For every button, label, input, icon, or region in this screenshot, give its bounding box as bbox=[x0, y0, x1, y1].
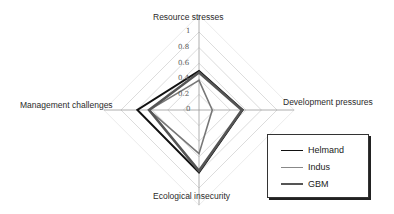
legend-item-helmand: Helmand bbox=[268, 143, 344, 157]
legend-swatch-helmand bbox=[281, 150, 303, 151]
tick-label-0-6: 0.6 bbox=[178, 59, 189, 67]
legend-item-indus: Indus bbox=[268, 160, 330, 174]
legend-label-helmand: Helmand bbox=[308, 145, 344, 155]
axis-label-development-pressures: Development pressures bbox=[283, 97, 373, 107]
legend-item-gbm: GBM bbox=[268, 177, 329, 191]
tick-label-0-8: 0.8 bbox=[178, 43, 189, 51]
tick-label-0-2: 0.2 bbox=[178, 90, 189, 98]
legend-swatch-gbm bbox=[281, 183, 303, 185]
tick-label-0-4: 0.4 bbox=[178, 74, 189, 82]
radar-axes bbox=[104, 15, 294, 205]
axis-label-resource-stresses: Resource stresses bbox=[153, 12, 223, 22]
tick-label-1: 1 bbox=[186, 27, 190, 35]
legend-swatch-indus bbox=[281, 167, 303, 168]
axis-label-ecological-insecurity: Ecological insecurity bbox=[153, 191, 230, 201]
radar-series bbox=[137, 71, 242, 172]
axis-label-management-challenges: Management challenges bbox=[20, 100, 113, 110]
chart-legend: Helmand Indus GBM bbox=[267, 134, 369, 198]
tick-label-0: 0 bbox=[186, 105, 190, 113]
legend-label-indus: Indus bbox=[308, 162, 330, 172]
legend-label-gbm: GBM bbox=[308, 179, 329, 189]
